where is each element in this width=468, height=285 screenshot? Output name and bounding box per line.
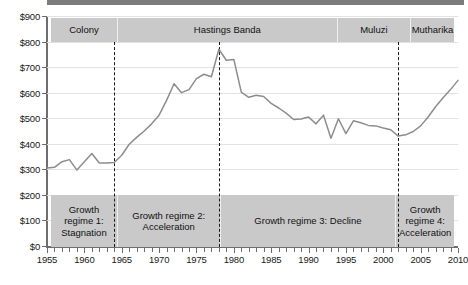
x-tick-minor	[107, 248, 108, 252]
x-tick-major	[271, 248, 272, 253]
y-tick-label: $700	[20, 62, 40, 73]
x-tick-minor	[114, 248, 115, 252]
x-tick-minor	[368, 248, 369, 252]
x-tick-label: 1990	[298, 254, 318, 265]
x-tick-minor	[211, 248, 212, 252]
x-tick-major	[84, 248, 85, 253]
x-tick-minor	[286, 248, 287, 252]
x-tick-minor	[129, 248, 130, 252]
x-tick-minor	[436, 248, 437, 252]
y-tick	[42, 93, 47, 94]
y-tick	[42, 246, 47, 247]
x-tick-minor	[144, 248, 145, 252]
x-tick-minor	[279, 248, 280, 252]
x-tick-minor	[137, 248, 138, 252]
x-tick-label: 1980	[224, 254, 244, 265]
x-tick-minor	[99, 248, 100, 252]
x-tick-minor	[353, 248, 354, 252]
x-tick-minor	[189, 248, 190, 252]
x-tick-minor	[443, 248, 444, 252]
y-tick	[42, 169, 47, 170]
y-tick-label: $100	[20, 215, 40, 226]
x-tick-minor	[167, 248, 168, 252]
x-tick-minor	[249, 248, 250, 252]
x-tick-minor	[323, 248, 324, 252]
x-tick-major	[122, 248, 123, 253]
y-tick-label: $800	[20, 36, 40, 47]
x-tick-major	[234, 248, 235, 253]
x-tick-minor	[428, 248, 429, 252]
y-tick-label: $900	[20, 11, 40, 22]
y-tick	[42, 195, 47, 196]
x-tick-minor	[256, 248, 257, 252]
y-tick	[42, 16, 47, 17]
x-tick-major	[196, 248, 197, 253]
x-tick-minor	[361, 248, 362, 252]
x-tick-label: 2010	[448, 254, 468, 265]
figure-top-rule	[47, 0, 464, 5]
y-tick	[42, 42, 47, 43]
x-tick-label: 1970	[149, 254, 169, 265]
x-tick-minor	[69, 248, 70, 252]
x-tick-label: 1965	[112, 254, 132, 265]
x-tick-minor	[398, 248, 399, 252]
x-tick-minor	[219, 248, 220, 252]
x-tick-label: 1995	[336, 254, 356, 265]
x-tick-minor	[92, 248, 93, 252]
x-tick-minor	[376, 248, 377, 252]
y-axis	[0, 16, 41, 247]
x-tick-minor	[301, 248, 302, 252]
x-tick-label: 1960	[74, 254, 94, 265]
x-tick-label: 1985	[261, 254, 281, 265]
y-tick-label: $500	[20, 113, 40, 124]
x-tick-label: 2005	[410, 254, 430, 265]
x-tick-minor	[338, 248, 339, 252]
series-path	[47, 49, 458, 170]
x-tick-minor	[241, 248, 242, 252]
x-tick-minor	[331, 248, 332, 252]
y-tick-label: $600	[20, 87, 40, 98]
x-tick-major	[159, 248, 160, 253]
y-tick-label: $200	[20, 189, 40, 200]
y-tick	[42, 144, 47, 145]
x-tick-label: 2000	[373, 254, 393, 265]
x-tick-minor	[294, 248, 295, 252]
series-line-gdp-per-capita	[47, 16, 458, 246]
x-tick-minor	[182, 248, 183, 252]
x-tick-minor	[226, 248, 227, 252]
x-tick-minor	[451, 248, 452, 252]
plot-area: ColonyHastings BandaMuluziMutharika Grow…	[47, 16, 458, 246]
x-tick-major	[421, 248, 422, 253]
y-tick-label: $300	[20, 164, 40, 175]
y-tick	[42, 118, 47, 119]
x-tick-minor	[316, 248, 317, 252]
x-tick-major	[458, 248, 459, 253]
x-tick-minor	[406, 248, 407, 252]
x-tick-minor	[152, 248, 153, 252]
x-tick-minor	[413, 248, 414, 252]
x-tick-label: 1955	[37, 254, 57, 265]
x-tick-minor	[62, 248, 63, 252]
x-tick-minor	[391, 248, 392, 252]
x-tick-minor	[77, 248, 78, 252]
x-tick-major	[309, 248, 310, 253]
y-tick-label: $400	[20, 138, 40, 149]
x-tick-minor	[54, 248, 55, 252]
x-tick-label: 1975	[186, 254, 206, 265]
x-tick-minor	[204, 248, 205, 252]
x-tick-major	[346, 248, 347, 253]
x-tick-major	[383, 248, 384, 253]
x-tick-minor	[174, 248, 175, 252]
x-tick-major	[47, 248, 48, 253]
y-tick-label: $0	[30, 241, 40, 252]
x-tick-minor	[264, 248, 265, 252]
y-tick	[42, 67, 47, 68]
y-tick	[42, 220, 47, 221]
